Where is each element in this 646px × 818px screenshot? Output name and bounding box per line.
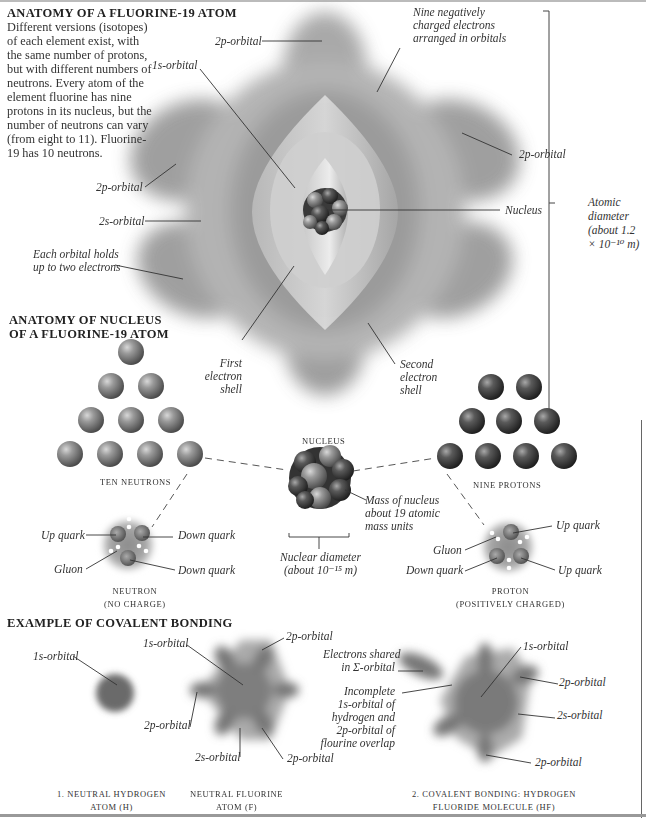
caption-ten-neutrons: TEN NEUTRONS xyxy=(100,476,171,489)
nucleus-section-title: ANATOMY OF NUCLEUS OF A FLUORINE-19 ATOM xyxy=(9,313,169,341)
label-atomic-diameter: Atomic diameter (about 1.2 × 10⁻¹⁰ m) xyxy=(588,195,639,251)
hydrogen-label-1s: 1s-orbital xyxy=(33,650,78,663)
atomic-diameter-bracket xyxy=(543,11,549,410)
ten-neutrons xyxy=(57,339,203,467)
proton-particle xyxy=(482,521,534,573)
fluorine-label-2s: 2s-orbital xyxy=(195,751,240,764)
label-left-2p-orbital: 2p-orbital xyxy=(96,181,143,194)
label-first-electron-shell: First electron shell xyxy=(202,357,242,396)
proton-label-gluon: Gluon xyxy=(433,544,462,557)
caption-nine-protons: NINE PROTONS xyxy=(473,479,541,492)
proton-label-up-quark-1: Up quark xyxy=(556,519,600,532)
neutron-label-down-quark-2: Down quark xyxy=(178,564,235,577)
bonding-section-title: EXAMPLE OF COVALENT BONDING xyxy=(7,616,233,630)
caption-proton: PROTON (POSITIVELY CHARGED) xyxy=(456,585,565,611)
label-1s-orbital: 1s-orbital xyxy=(152,59,197,72)
hf-label-shared-electrons: Electrons shared in Σ-orbital xyxy=(323,648,395,674)
nine-protons xyxy=(437,374,577,469)
label-nine-electrons: Nine negatively charged electrons arrang… xyxy=(413,6,506,45)
atom-section-title: ANATOMY OF A FLUORINE-19 ATOM xyxy=(7,6,237,20)
label-nucleus: Nucleus xyxy=(505,204,542,217)
label-each-orbital: Each orbital holds up to two electrons xyxy=(33,248,120,274)
label-nuclear-diameter: Nuclear diameter (about 10⁻¹⁵ m) xyxy=(278,551,363,577)
caption-neutron: NEUTRON (NO CHARGE) xyxy=(104,585,166,611)
fluorine-label-1s: 1s-orbital xyxy=(143,637,188,650)
neutron-label-gluon: Gluon xyxy=(54,563,83,576)
hf-label-overlap: Incomplete 1s-orbital of hydrogen and 2p… xyxy=(315,685,395,750)
fluorine-orbital xyxy=(190,640,299,740)
hf-label-1s: 1s-orbital xyxy=(523,640,568,653)
fluorine-label-2p-bottom: 2p-orbital xyxy=(287,752,334,765)
label-nucleus-mass: Mass of nucleus about 19 atomic mass uni… xyxy=(365,494,440,533)
atom-intro-text: Different versions (isotopes) of each el… xyxy=(7,20,157,160)
hf-label-2p-bottom: 2p-orbital xyxy=(535,756,582,769)
fluorine-label-2p-top: 2p-orbital xyxy=(286,630,333,643)
caption-hf-molecule: 2. COVALENT BONDING: HYDROGEN FLUORIDE M… xyxy=(412,788,576,814)
caption-fluorine: NEUTRAL FLUORINE ATOM (F) xyxy=(190,788,283,814)
proton-label-up-quark-2: Up quark xyxy=(558,564,602,577)
hf-label-2p-right: 2p-orbital xyxy=(559,676,606,689)
hydrogen-orbital xyxy=(96,674,134,712)
label-2s-orbital: 2s-orbital xyxy=(99,215,144,228)
hf-orbital xyxy=(395,643,541,762)
caption-nucleus: NUCLEUS xyxy=(302,435,345,448)
label-second-electron-shell: Second electron shell xyxy=(400,358,437,397)
caption-hydrogen: 1. NEUTRAL HYDROGEN ATOM (H) xyxy=(57,788,166,814)
fluorine-label-2p-left: 2p-orbital xyxy=(144,719,191,732)
nucleus-cluster xyxy=(288,445,354,509)
label-top-2p-orbital: 2p-orbital xyxy=(215,35,262,48)
neutron-label-down-quark-1: Down quark xyxy=(178,529,235,542)
neutron-label-up-quark: Up quark xyxy=(41,529,85,542)
hf-label-2s: 2s-orbital xyxy=(557,709,602,722)
neutron-particle xyxy=(102,517,154,571)
proton-label-down-quark: Down quark xyxy=(406,564,463,577)
label-right-2p-orbital: 2p-orbital xyxy=(519,148,566,161)
